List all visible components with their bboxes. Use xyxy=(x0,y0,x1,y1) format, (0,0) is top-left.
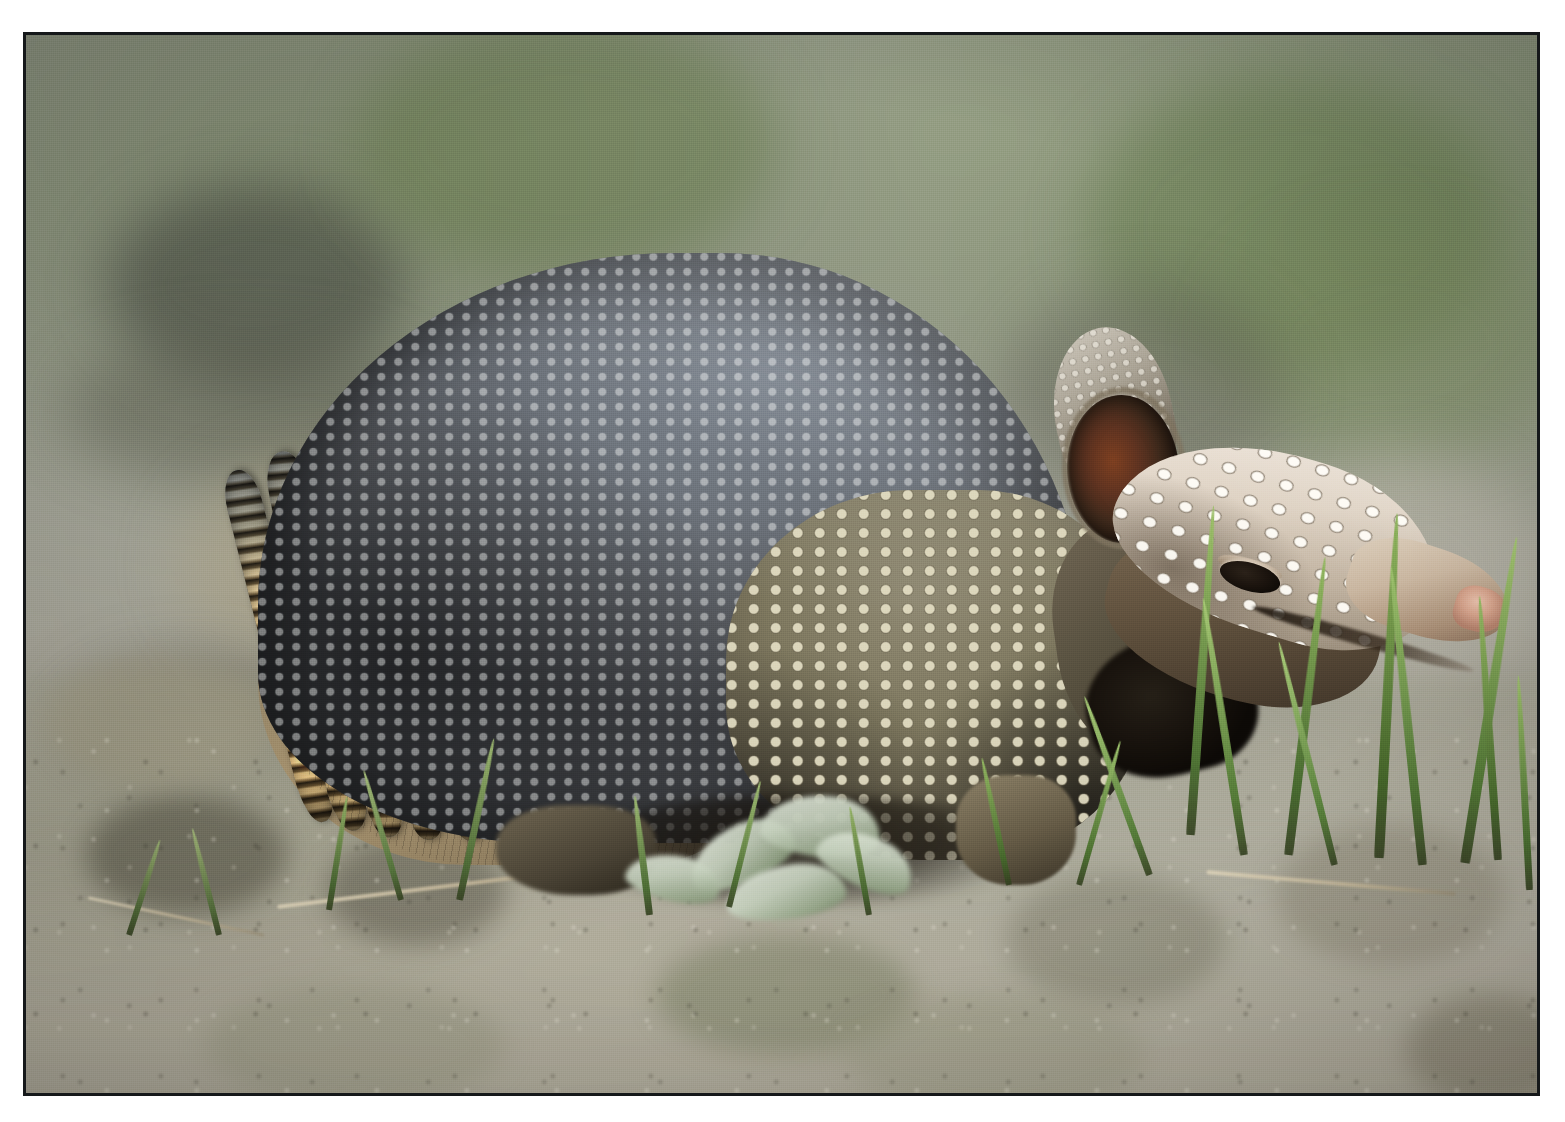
front-leg xyxy=(956,775,1076,885)
photograph xyxy=(26,35,1537,1093)
page-root: A nine-banded armadillo walking on bare … xyxy=(0,0,1565,1122)
photo-frame xyxy=(23,32,1540,1096)
armadillo xyxy=(26,35,1537,1093)
